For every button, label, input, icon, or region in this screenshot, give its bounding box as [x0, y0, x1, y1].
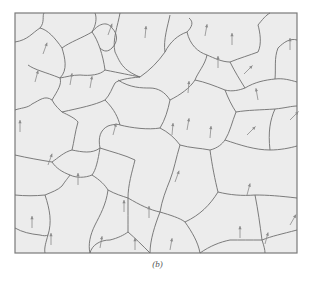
figure-caption: (b) — [0, 259, 315, 269]
grain-structure-diagram — [0, 0, 315, 282]
figure-frame — [15, 13, 297, 253]
